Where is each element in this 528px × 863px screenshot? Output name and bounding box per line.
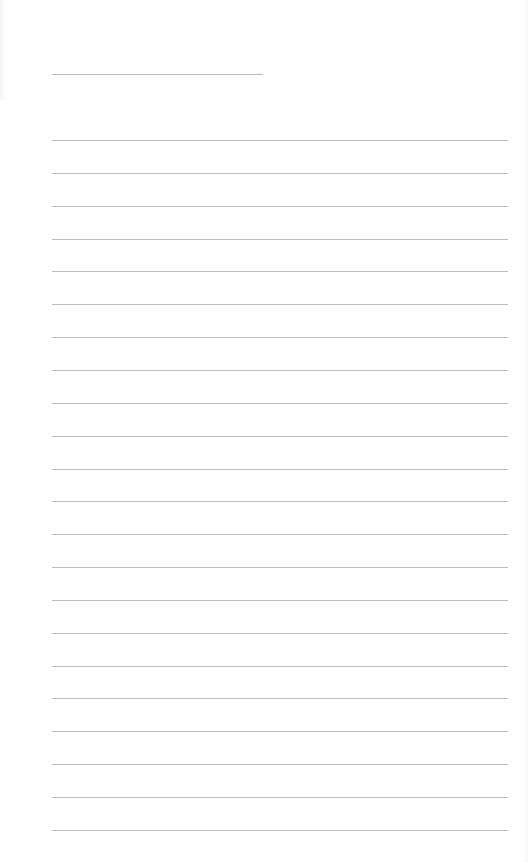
ruled-line — [52, 206, 508, 207]
ruled-line — [52, 567, 508, 568]
ruled-line — [52, 666, 508, 667]
ruled-line — [52, 830, 508, 831]
ruled-line — [52, 633, 508, 634]
ruled-line — [52, 304, 508, 305]
ruled-line — [52, 698, 508, 699]
ruled-line — [52, 501, 508, 502]
ruled-line — [52, 436, 508, 437]
ruled-line — [52, 600, 508, 601]
ruled-line — [52, 469, 508, 470]
lined-paper-page — [0, 0, 528, 863]
ruled-line — [52, 239, 508, 240]
ruled-line — [52, 403, 508, 404]
ruled-line — [52, 731, 508, 732]
ruled-line — [52, 337, 508, 338]
ruled-line — [52, 370, 508, 371]
page-edge-shadow-left — [0, 0, 6, 100]
ruled-line — [52, 534, 508, 535]
ruled-lines — [52, 0, 508, 863]
ruled-line — [52, 140, 508, 141]
ruled-line — [52, 271, 508, 272]
ruled-line — [52, 173, 508, 174]
ruled-line — [52, 764, 508, 765]
ruled-line — [52, 797, 508, 798]
page-edge-shadow-right — [524, 0, 528, 863]
